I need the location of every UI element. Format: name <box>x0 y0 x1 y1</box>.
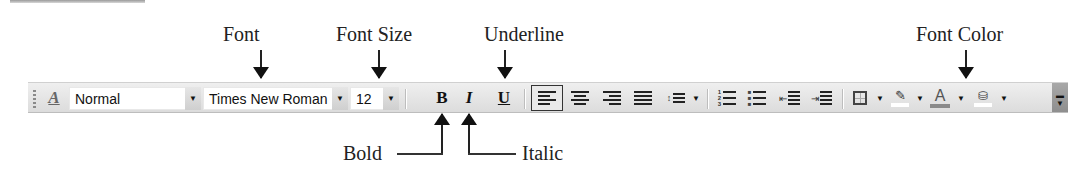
page-edge-line <box>10 0 145 3</box>
italic-icon: I <box>466 88 473 108</box>
bold-button[interactable]: B <box>430 86 454 110</box>
chevron-down-icon: ▼ <box>692 94 700 103</box>
chevron-down-icon: ▼ <box>1000 94 1008 103</box>
align-right-button[interactable] <box>599 86 625 110</box>
separator <box>524 89 526 109</box>
style-combo[interactable]: Normal <box>69 87 186 110</box>
borders-button[interactable] <box>848 86 872 110</box>
line-spacing-dropdown[interactable]: ▼ <box>690 86 702 110</box>
separator <box>707 89 709 109</box>
align-right-icon <box>603 91 621 105</box>
toolbar-overflow-icon: ▬▼ <box>1056 92 1064 108</box>
chevron-down-icon: ▼ <box>916 94 924 103</box>
font-size-value: 12 <box>356 91 372 107</box>
decrease-indent-icon: ⇤ <box>779 93 787 104</box>
chevron-down-icon: ▼ <box>876 94 884 103</box>
highlight-color-bar <box>891 103 909 107</box>
font-value: Times New Roman <box>209 91 328 107</box>
fill-color-dropdown[interactable]: ▼ <box>998 86 1010 110</box>
callout-line-bold <box>397 153 443 155</box>
styles-icon: A <box>48 88 59 108</box>
increase-indent-icon: ⇥ <box>811 93 819 104</box>
annotation-font: Font <box>223 23 260 46</box>
line-spacing-button[interactable]: ↕ <box>663 86 689 110</box>
underline-icon: U <box>498 88 510 108</box>
fill-color-bar <box>974 103 992 107</box>
font-color-icon: A <box>935 88 946 104</box>
style-value: Normal <box>75 91 120 107</box>
align-center-icon <box>571 91 589 105</box>
annotation-underline: Underline <box>484 23 564 46</box>
arrow-font-size <box>378 50 380 78</box>
numbering-button[interactable]: 123 <box>714 86 740 110</box>
chevron-down-icon: ▼ <box>336 94 344 103</box>
font-dropdown-button[interactable]: ▼ <box>332 87 348 110</box>
font-combo[interactable]: Times New Roman <box>203 87 333 110</box>
highlighter-icon: ✎ <box>895 89 906 103</box>
fill-color-button[interactable]: ⛁ <box>971 86 995 110</box>
annotation-italic: Italic <box>522 142 563 165</box>
chevron-down-icon: ▼ <box>387 94 395 103</box>
arrow-font-color <box>965 50 967 78</box>
font-color-dropdown[interactable]: ▼ <box>955 86 967 110</box>
toolbar-grip-handle[interactable] <box>33 90 36 108</box>
bullets-button[interactable]: ■■■ <box>744 86 770 110</box>
underline-button[interactable]: U <box>492 86 516 110</box>
font-size-dropdown-button[interactable]: ▼ <box>383 87 399 110</box>
arrow-italic <box>468 114 470 155</box>
increase-indent-button[interactable]: ⇥ <box>808 86 834 110</box>
paint-bucket-icon: ⛁ <box>978 89 988 103</box>
font-size-combo[interactable]: 12 <box>350 87 384 110</box>
bold-icon: B <box>436 88 447 108</box>
align-left-icon <box>538 91 556 105</box>
arrow-bold <box>441 114 443 155</box>
styles-and-formatting-button[interactable]: A <box>41 86 67 110</box>
annotation-bold: Bold <box>343 142 382 165</box>
font-color-bar <box>930 104 950 108</box>
highlight-button[interactable]: ✎ <box>888 86 912 110</box>
decrease-indent-button[interactable]: ⇤ <box>776 86 802 110</box>
line-spacing-icon: ↕ <box>667 94 672 103</box>
separator <box>842 89 844 109</box>
annotation-font-color: Font Color <box>916 23 1003 46</box>
font-color-button[interactable]: A <box>928 86 952 110</box>
formatting-toolbar: A Normal ▼ Times New Roman ▼ 12 ▼ B I U <box>28 82 1068 113</box>
separator <box>405 89 407 109</box>
highlight-dropdown[interactable]: ▼ <box>914 86 926 110</box>
toolbar-options-button[interactable]: ▬▼ <box>1052 83 1068 112</box>
align-center-button[interactable] <box>567 86 593 110</box>
bulleted-list-icon: ■■■ <box>748 89 752 107</box>
callout-line-italic <box>468 153 516 155</box>
justify-button[interactable] <box>630 86 656 110</box>
chevron-down-icon: ▼ <box>957 94 965 103</box>
style-dropdown-button[interactable]: ▼ <box>185 87 201 110</box>
annotation-font-size: Font Size <box>336 23 412 46</box>
numbered-list-icon: 123 <box>718 89 721 107</box>
arrow-underline <box>504 50 506 78</box>
align-left-button[interactable] <box>531 85 563 111</box>
border-icon <box>853 91 867 105</box>
italic-button[interactable]: I <box>457 86 481 110</box>
borders-dropdown[interactable]: ▼ <box>874 86 886 110</box>
chevron-down-icon: ▼ <box>189 94 197 103</box>
justify-icon <box>634 91 652 105</box>
arrow-font <box>260 50 262 78</box>
